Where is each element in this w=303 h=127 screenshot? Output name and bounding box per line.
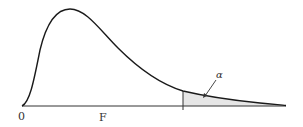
f-distribution-diagram: 0 F α <box>0 0 303 127</box>
alpha-label: α <box>216 69 223 80</box>
origin-label: 0 <box>18 110 25 123</box>
density-curve <box>22 9 286 106</box>
axis-label-f: F <box>99 111 107 124</box>
alpha-pointer-arrow <box>205 80 216 96</box>
